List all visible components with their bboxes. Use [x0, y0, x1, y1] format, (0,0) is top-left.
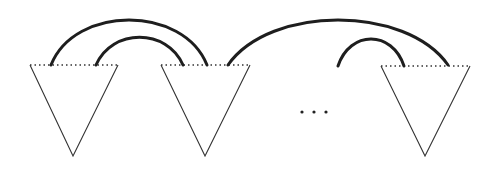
- triangle-1-sides: [30, 65, 118, 156]
- triangle-2-sides: [161, 65, 250, 156]
- arc-inner-1-2: [96, 37, 183, 65]
- arc-incoming-n: [338, 39, 404, 66]
- triangle-n-sides: [381, 66, 470, 156]
- triangle-2: [161, 65, 250, 156]
- arc-2-n: [228, 20, 448, 65]
- ellipsis-dot: [324, 110, 327, 113]
- ellipsis-dot: [300, 110, 303, 113]
- triangle-n: [381, 66, 470, 156]
- triangle-1: [30, 65, 118, 156]
- ellipsis: ...: [300, 110, 327, 113]
- arc-outer-1-2: [51, 20, 207, 65]
- tree-sequence-diagram: ...: [0, 0, 490, 169]
- ellipsis-dot: [312, 110, 315, 113]
